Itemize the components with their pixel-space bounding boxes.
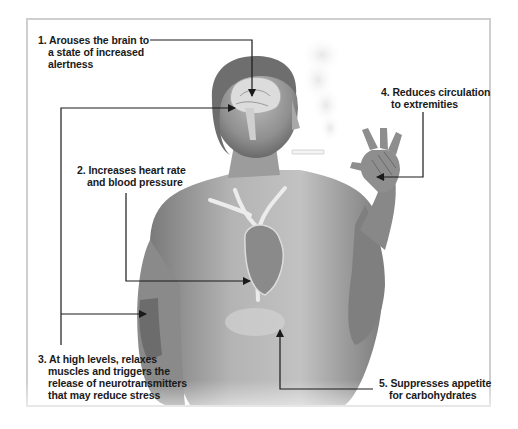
annotation-3: 3. At high levels, relaxes muscles and t… <box>38 353 187 401</box>
cigarette <box>292 150 324 154</box>
brain <box>230 77 280 113</box>
stomach <box>225 308 285 336</box>
annotation-2: 2. Increases heart rate and blood pressu… <box>77 164 186 188</box>
annotation-1: 1. Arouses the brain to a state of incre… <box>38 34 149 70</box>
annotation-5: 5. Suppresses appetite for carbohydrates <box>379 377 491 401</box>
smoke <box>302 37 342 142</box>
head <box>212 56 300 158</box>
annotation-4: 4. Reduces circulation to extremities <box>381 86 490 110</box>
hand <box>350 128 402 193</box>
